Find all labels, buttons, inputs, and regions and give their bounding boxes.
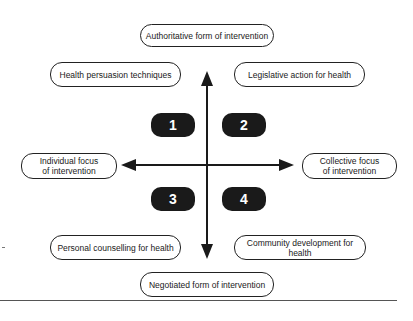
quadrant-badge-2: 2 bbox=[222, 113, 266, 137]
quadrant-label-top-left: Health persuasion techniques bbox=[50, 62, 181, 87]
axis-label-top-text: Authoritative form of intervention bbox=[146, 31, 268, 41]
quadrant-label-bottom-right: Community development for health bbox=[234, 235, 366, 260]
arrow-left-icon bbox=[121, 159, 136, 171]
quadrant-label-top-right: Legislative action for health bbox=[234, 62, 365, 87]
quadrant-badge-1-text: 1 bbox=[169, 117, 177, 133]
quadrant-label-bottom-right-text: Community development for health bbox=[239, 238, 361, 258]
quadrant-label-bottom-left-text: Personal counselling for health bbox=[57, 243, 173, 253]
axis-label-bottom-text: Negotiated form of intervention bbox=[149, 280, 265, 290]
axis-label-left-text: Individual focus of intervention bbox=[40, 156, 99, 176]
axis-label-top: Authoritative form of intervention bbox=[140, 24, 274, 47]
quadrant-label-top-right-text: Legislative action for health bbox=[248, 70, 351, 80]
quadrant-badge-1: 1 bbox=[151, 113, 195, 137]
margin-mark bbox=[2, 247, 5, 248]
axis-label-right-text: Collective focus of intervention bbox=[320, 156, 380, 176]
arrow-right-icon bbox=[279, 159, 294, 171]
axis-label-bottom: Negotiated form of intervention bbox=[140, 272, 274, 297]
quadrant-badge-4: 4 bbox=[222, 187, 266, 211]
quadrant-badge-3: 3 bbox=[151, 187, 195, 211]
quadrant-badge-4-text: 4 bbox=[240, 191, 248, 207]
axis-label-right: Collective focus of intervention bbox=[302, 153, 397, 179]
bottom-rule bbox=[0, 300, 397, 301]
quadrant-badge-2-text: 2 bbox=[240, 117, 248, 133]
arrow-down-icon bbox=[201, 244, 213, 259]
arrow-up-icon bbox=[201, 71, 213, 86]
quadrant-label-bottom-left: Personal counselling for health bbox=[50, 235, 181, 260]
axis-label-left: Individual focus of intervention bbox=[21, 153, 117, 179]
quadrant-label-top-left-text: Health persuasion techniques bbox=[60, 70, 172, 80]
quadrant-badge-3-text: 3 bbox=[169, 191, 177, 207]
